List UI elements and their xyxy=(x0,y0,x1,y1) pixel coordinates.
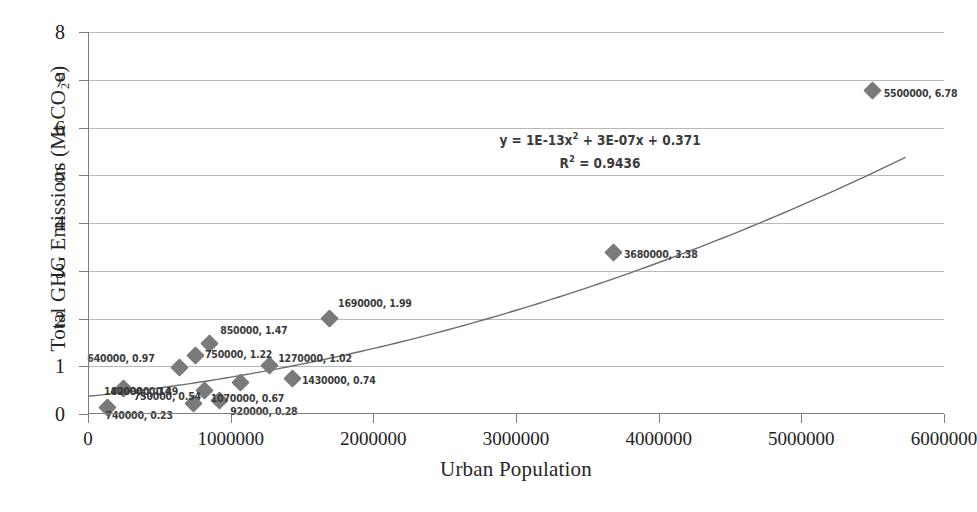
data-point-label: 920000, 0.28 xyxy=(230,405,297,417)
equation-suffix: + 3E-07x + 0.371 xyxy=(578,132,700,148)
data-point-label: 5500000, 6.78 xyxy=(884,87,958,99)
y-axis-tick xyxy=(79,414,88,415)
y-axis-tick-label: 1 xyxy=(55,355,71,378)
x-axis-tick xyxy=(801,414,802,423)
x-axis-title: Urban Population xyxy=(88,457,944,482)
x-axis-tick-label: 3000000 xyxy=(483,428,550,450)
r-squared-line: R2 = 0.9436 xyxy=(455,151,745,174)
data-point-label: 1430000, 0.74 xyxy=(302,374,376,386)
data-point-label: 850000, 1.47 xyxy=(220,324,287,336)
y-axis-tick-label: 7 xyxy=(55,68,71,91)
data-point-label: 1690000, 1.99 xyxy=(338,297,412,309)
y-axis-line xyxy=(88,32,89,414)
x-axis-tick xyxy=(944,414,945,423)
y-axis-tick-label: 2 xyxy=(55,307,71,330)
x-axis-tick xyxy=(659,414,660,423)
y-axis-tick-label: 5 xyxy=(55,164,71,187)
data-point-label: 1270000, 1.02 xyxy=(278,352,352,364)
data-point-label: 750000, 1.22 xyxy=(205,348,272,360)
x-axis-line xyxy=(88,413,944,414)
x-axis-tick-label: 1000000 xyxy=(197,428,264,450)
y-axis-tick-label: 6 xyxy=(55,116,71,139)
y-axis-tick-label: 8 xyxy=(55,21,71,44)
y-axis-tick xyxy=(79,80,88,81)
data-point-label: 1070000, 0.67 xyxy=(211,392,285,404)
data-point-label: 820000, 0.49 xyxy=(111,385,178,397)
equation-line: y = 1E-13x2 + 3E-07x + 0.371 xyxy=(455,128,745,151)
y-axis-tick-label: 3 xyxy=(55,259,71,282)
data-point-label: 740000, 0.23 xyxy=(106,409,173,421)
y-axis-tick xyxy=(79,223,88,224)
x-axis-tick-label: 6000000 xyxy=(911,428,977,450)
y-axis-tick xyxy=(79,271,88,272)
trendline-equation: y = 1E-13x2 + 3E-07x + 0.371 R2 = 0.9436 xyxy=(455,128,745,174)
y-axis-tick xyxy=(79,175,88,176)
x-axis-tick xyxy=(373,414,374,423)
x-axis-tick-label: 5000000 xyxy=(768,428,835,450)
data-point-label: 640000, 0.97 xyxy=(87,352,154,364)
equation-prefix: y = 1E-13x xyxy=(499,132,572,148)
y-axis-tick xyxy=(79,319,88,320)
y-axis-tick xyxy=(79,366,88,367)
x-axis-tick-label: 4000000 xyxy=(625,428,692,450)
r-squared-prefix: R xyxy=(560,154,569,170)
y-axis-tick xyxy=(79,128,88,129)
y-axis-tick xyxy=(79,32,88,33)
y-axis-tick-label: 4 xyxy=(55,212,71,235)
x-axis-tick xyxy=(516,414,517,423)
plot-area: 012345678 010000002000000300000040000005… xyxy=(88,32,944,414)
data-point-label: 3680000, 3.38 xyxy=(624,248,698,260)
r-squared-suffix: = 0.9436 xyxy=(575,154,641,170)
x-axis-tick xyxy=(88,414,89,423)
x-axis-tick-label: 0 xyxy=(83,428,93,450)
x-axis-tick-label: 2000000 xyxy=(340,428,407,450)
y-axis-tick-label: 0 xyxy=(55,403,71,426)
